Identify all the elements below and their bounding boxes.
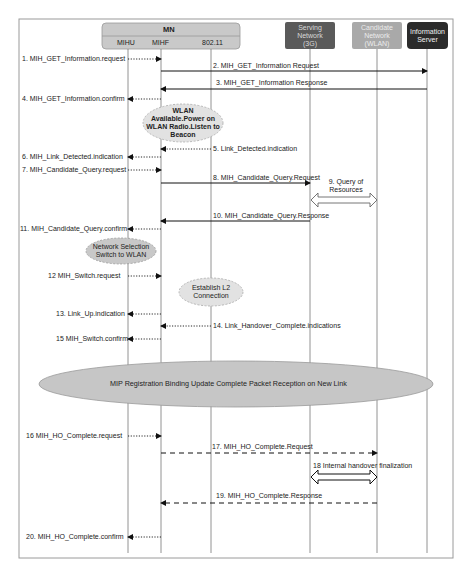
serving-network-line1: Serving: [298, 24, 322, 32]
note-establish-l2-text: Establish L2 Connection: [179, 284, 243, 300]
note-wlan-line1: WLAN: [143, 107, 223, 115]
note-wlan-line2: Available.Power on: [143, 115, 223, 123]
information-server-line1: Information: [410, 28, 445, 36]
note-wlan-available-text: WLAN Available.Power on WLAN Radio.Liste…: [143, 107, 223, 139]
note-netsel-line1: Network Selection: [86, 243, 156, 251]
serving-network-line3: (3G): [303, 40, 317, 48]
msg-3-label: 3. MIH_GET_Information Response: [216, 79, 327, 87]
msg-8-label: 8. MIH_Candidate_Query.Request: [213, 174, 320, 182]
msg-7-label: 7. MIH_Candidate_Query.request: [22, 166, 126, 174]
msg-18-label: 18 Internal handover finalization: [313, 462, 412, 470]
msg-9-label: 9. Query of Resources: [326, 178, 366, 194]
msg-20-label: 20. MIH_HO_Complete.confirm: [26, 533, 124, 541]
serving-network-line2: Network: [297, 32, 323, 40]
msg-2-label: 2. MIH_GET_Information Request: [213, 62, 319, 70]
msg-5-label: 5. Link_Detected.indication: [213, 145, 297, 153]
msg-12-label: 12 MIH_Switch.request: [48, 272, 120, 280]
serving-network-label: Serving Network (3G): [285, 22, 335, 49]
note-l2-line1: Establish L2: [179, 284, 243, 292]
msg-11-label: 11. MIH_Candidate_Query.confirm: [20, 225, 127, 233]
candidate-network-label: Candidate Network (WLAN): [352, 22, 402, 49]
msg-1-label: 1. MIH_GET_Information.request: [22, 55, 125, 63]
information-server-label: Information Server: [407, 22, 448, 49]
mn-group-title: MN: [163, 26, 175, 34]
participant-802-11-label: 802.11: [202, 39, 223, 47]
sequence-diagram: MN MIHU MIHF 802.11 Serving Network (3G)…: [0, 0, 469, 574]
participant-mihu-label: MIHU: [117, 39, 135, 47]
note-network-selection-text: Network Selection Switch to WLAN: [86, 243, 156, 259]
note-l2-line2: Connection: [179, 292, 243, 300]
msg-15-label: 15 MIH_Switch.confirm: [56, 335, 128, 343]
candidate-network-line3: (WLAN): [365, 40, 390, 48]
msg-19-label: 19. MIH_HO_Complete.Response: [216, 492, 322, 500]
note-netsel-line2: Switch to WLAN: [86, 251, 156, 259]
note-mip-registration-text: MIP Registration Binding Update Complete…: [110, 380, 347, 388]
note-wlan-line3: WLAN Radio.Listen to: [143, 123, 223, 131]
msg-6-label: 6. MIH_Link_Detected.indication: [22, 153, 123, 161]
candidate-network-line2: Network: [364, 32, 390, 40]
msg-9-line1: 9. Query of: [326, 178, 366, 186]
information-server-line2: Server: [417, 36, 438, 44]
candidate-network-line1: Candidate: [361, 24, 393, 32]
msg-4-label: 4. MIH_GET_Information.confirm: [22, 95, 125, 103]
msg-14-label: 14. Link_Handover_Complete.indications: [213, 322, 341, 330]
msg-9-line2: Resources: [326, 186, 366, 194]
msg-16-label: 16 MIH_HO_Complete.request: [26, 432, 122, 440]
participant-mihf-label: MIHF: [152, 39, 169, 47]
note-wlan-line4: Beacon: [143, 131, 223, 139]
msg-17-label: 17. MIH_HO_Complete.Request: [212, 443, 313, 451]
msg-10-label: 10. MIH_Candidate_Query.Response: [213, 212, 329, 220]
msg-13-label: 13. Link_Up.indication: [56, 310, 125, 318]
